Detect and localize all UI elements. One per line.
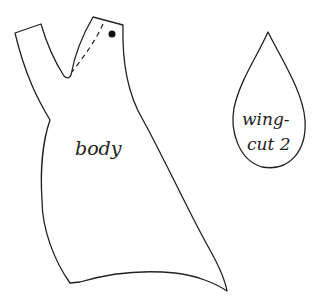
body-label: body <box>75 137 122 159</box>
pattern-sheet: body wing- cut 2 <box>0 0 324 307</box>
pattern-drawing: body wing- cut 2 <box>0 0 324 307</box>
wing-label-line1: wing- <box>242 109 290 129</box>
eye-dot <box>109 31 116 38</box>
wing-label-line2: cut 2 <box>247 134 291 154</box>
